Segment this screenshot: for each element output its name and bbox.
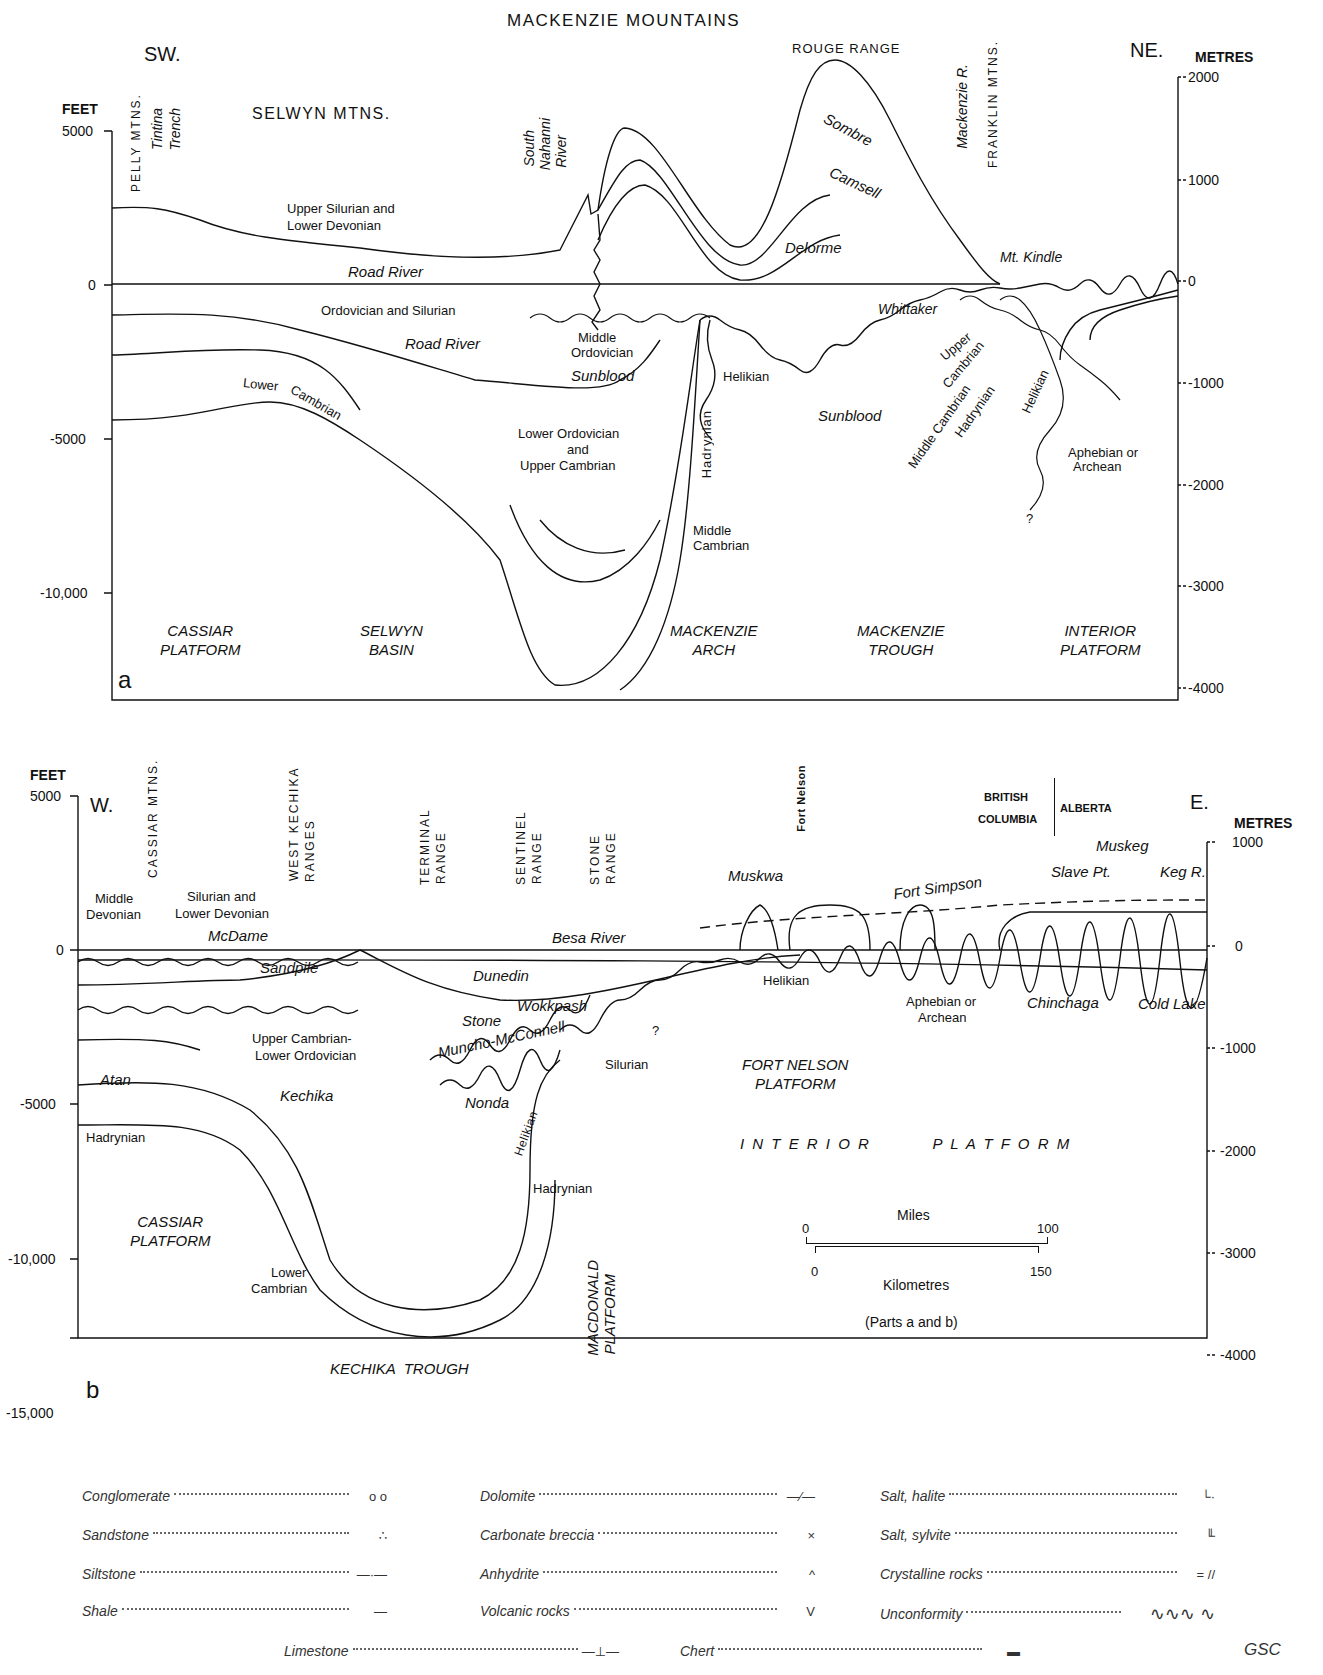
- formation-label: Wokkpash: [517, 998, 587, 1013]
- panel-a-direction-right: NE.: [1130, 40, 1163, 60]
- dolomite-icon: —∕—: [781, 1489, 815, 1504]
- fort-nelson-label: Fort Nelson: [796, 765, 807, 832]
- scale-miles-start: 0: [802, 1222, 809, 1235]
- formation-label: Lower Devonian: [287, 219, 381, 232]
- boundary-line: [1054, 778, 1055, 836]
- unconformity-icon: ∿∿∿ ∿: [1125, 1603, 1215, 1625]
- panel-b-left-axis-unit: FEET: [30, 768, 66, 782]
- legend-item-conglomerate: Conglomerateo o: [82, 1488, 387, 1504]
- province-boundary-label: BRITISH: [984, 792, 1028, 803]
- uncertainty-mark: ?: [1026, 512, 1033, 525]
- legend-item-salt-sylvite: Salt, sylvite╙: [880, 1527, 1215, 1543]
- formation-label: Muskwa: [728, 868, 783, 883]
- formation-label: Besa River: [552, 930, 625, 945]
- panel-a-right-tick: -3000: [1188, 579, 1224, 593]
- province-label: MACKENZIETROUGH: [857, 622, 945, 660]
- scale-note: (Parts a and b): [865, 1315, 958, 1329]
- uncertainty-mark: ?: [652, 1024, 659, 1037]
- franklin-mtns-label: FRANKLIN MTNS.: [987, 28, 999, 168]
- halite-icon: └·: [1181, 1489, 1215, 1504]
- formation-label: Aphebian or: [906, 995, 976, 1008]
- credit-label: GSC: [1244, 1641, 1281, 1658]
- south-label: South: [522, 130, 536, 167]
- province-label: CASSIARPLATFORM: [130, 1213, 211, 1251]
- siltstone-icon: —·—: [353, 1567, 387, 1582]
- panel-b-direction-left: W.: [90, 795, 113, 815]
- panel-b-left-tick: 5000: [30, 789, 61, 803]
- terminal-range-label: RANGE: [435, 824, 447, 884]
- formation-label: Ordovician and Silurian: [321, 304, 455, 317]
- formation-label: Upper Silurian and: [287, 202, 395, 215]
- panel-b-left-tick: -5000: [20, 1097, 56, 1111]
- formation-label: Nonda: [465, 1095, 509, 1110]
- formation-label: Archean: [918, 1011, 966, 1024]
- panel-a-left-tick: 5000: [62, 124, 93, 138]
- panel-b-right-tick: 1000: [1232, 835, 1263, 849]
- shale-icon: —: [353, 1604, 387, 1619]
- formation-label: Helikian: [723, 370, 769, 383]
- panel-a-right-tick: -2000: [1188, 478, 1224, 492]
- formation-label: Archean: [1073, 460, 1121, 473]
- panel-a-title: MACKENZIE MOUNTAINS: [507, 12, 740, 29]
- scale-miles-label: Miles: [897, 1208, 930, 1222]
- formation-label: Sandpile: [260, 960, 318, 975]
- formation-label: Road River: [405, 336, 480, 351]
- terminal-range-label: TERMINAL: [419, 795, 431, 885]
- formation-label: Upper Cambrian: [520, 459, 615, 472]
- formation-label: Devonian: [86, 908, 141, 921]
- panel-b-left-tick: -10,000: [8, 1252, 55, 1266]
- panel-a-left-tick: 0: [88, 278, 96, 292]
- formation-label: Lower Ordovician: [518, 427, 619, 440]
- panel-a-letter: a: [118, 668, 131, 692]
- formation-label: Cold Lake: [1138, 996, 1206, 1011]
- limestone-icon: —⊥—: [582, 1644, 619, 1659]
- formation-label: Helikian: [763, 974, 809, 987]
- formation-label: Sunblood: [818, 408, 881, 423]
- formation-label: Middle: [578, 331, 616, 344]
- formation-label: Dunedin: [473, 968, 529, 983]
- province-label: INTERIORPLATFORM: [1060, 622, 1141, 660]
- panel-a-right-tick: -4000: [1188, 681, 1224, 695]
- legend-item-dolomite: Dolomite—∕—: [480, 1488, 815, 1504]
- formation-label: Upper Cambrian-: [252, 1032, 352, 1045]
- river-label: River: [554, 135, 568, 168]
- formation-label: Muskeg: [1096, 838, 1149, 853]
- formation-label: and: [567, 443, 589, 456]
- province-boundary-label: ALBERTA: [1060, 803, 1112, 814]
- province-label: MACKENZIEARCH: [670, 622, 758, 660]
- panel-b-right-tick: -3000: [1220, 1246, 1256, 1260]
- formation-label: Keg R.: [1160, 864, 1206, 879]
- panel-b-right-axis-unit: METRES: [1234, 816, 1292, 830]
- panel-a-right-tick: -1000: [1188, 376, 1224, 390]
- legend-item-shale: Shale—: [82, 1603, 387, 1619]
- formation-label: Aphebian or: [1068, 446, 1138, 459]
- legend-item-unconformity: Unconformity∿∿∿ ∿: [880, 1603, 1215, 1625]
- legend-item-siltstone: Siltstone—·—: [82, 1566, 387, 1582]
- panel-b-right-tick: -1000: [1220, 1041, 1256, 1055]
- formation-label: Middle: [95, 892, 133, 905]
- panel-a-right-tick: 2000: [1188, 70, 1219, 84]
- legend-item-crystalline: Crystalline rocks= //: [880, 1566, 1215, 1582]
- rouge-range-label: ROUGE RANGE: [792, 42, 901, 55]
- cassiar-mtns-label: CASSIAR MTNS.: [147, 758, 159, 878]
- stone-range-label: STONE: [589, 825, 601, 885]
- conglomerate-icon: o o: [353, 1489, 387, 1504]
- panel-b-letter: b: [86, 1378, 99, 1402]
- anhydrite-icon: ^: [781, 1567, 815, 1582]
- formation-label: Chinchaga: [1027, 995, 1099, 1010]
- breccia-icon: ×: [781, 1528, 815, 1543]
- formation-label: Cambrian: [693, 539, 749, 552]
- formation-label: Hadrynian: [86, 1131, 145, 1144]
- panel-b-left-tick: -15,000: [6, 1406, 53, 1420]
- formation-label: Middle: [693, 524, 731, 537]
- formation-label: Whittaker: [878, 302, 937, 316]
- panel-b-right-tick: 0: [1235, 939, 1243, 953]
- crystalline-icon: = //: [1181, 1567, 1215, 1582]
- formation-label: Delorme: [785, 240, 842, 255]
- formation-label: Mt. Kindle: [1000, 250, 1062, 264]
- scale-km-end: 150: [1030, 1265, 1052, 1278]
- trench-label: Trench: [168, 108, 182, 151]
- legend-item-sandstone: Sandstone∴: [82, 1527, 387, 1543]
- province-label: CASSIARPLATFORM: [160, 622, 241, 660]
- mackenzie-river-label: Mackenzie R.: [955, 64, 969, 149]
